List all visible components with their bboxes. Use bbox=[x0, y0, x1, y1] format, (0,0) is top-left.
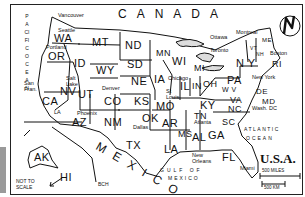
city-new-orleans: New Orleans bbox=[192, 152, 212, 164]
city-salt-lake: Salt Lake bbox=[66, 75, 82, 87]
state-wa: WA bbox=[54, 33, 72, 44]
state-ak: AK bbox=[34, 152, 50, 163]
state-nm: NM bbox=[104, 117, 122, 128]
state-wy: WY bbox=[96, 65, 115, 76]
city-portland: Portland bbox=[46, 45, 67, 51]
state-or: OR bbox=[48, 51, 66, 62]
city-vancouver: Vancouver bbox=[58, 13, 84, 19]
state-nc: NC bbox=[228, 105, 242, 114]
mexico-border bbox=[52, 127, 96, 182]
state-mt: MT bbox=[92, 37, 109, 48]
city-atlanta: Atlanta bbox=[194, 120, 211, 126]
state-nv: NV bbox=[60, 86, 76, 97]
state-la: LA bbox=[164, 144, 178, 155]
state-ms: MS bbox=[178, 130, 193, 139]
city-seattle: Seattle bbox=[58, 28, 75, 34]
city-st-louis: St Louis bbox=[166, 88, 180, 100]
state-oh: OH bbox=[203, 80, 218, 89]
state-sc: SC bbox=[222, 118, 236, 127]
state-ri: RI bbox=[272, 60, 282, 69]
city-wash-dc: Wash. DC bbox=[252, 106, 277, 112]
us-outline bbox=[38, 17, 280, 178]
label-gulf-of: GULF OF bbox=[160, 168, 203, 173]
state-nd: ND bbox=[125, 40, 142, 51]
state-mi: MI bbox=[194, 64, 205, 73]
state-mo: MO bbox=[156, 101, 175, 112]
state-sd: SD bbox=[127, 59, 143, 70]
city-ottawa: Ottawa bbox=[210, 35, 227, 41]
city-dallas: Dallas bbox=[133, 125, 148, 131]
state-ca: CA bbox=[42, 96, 58, 107]
state-wv: W V bbox=[222, 86, 237, 93]
state-in: IN bbox=[192, 82, 202, 91]
state-tx: TX bbox=[126, 140, 141, 151]
state-co: CO bbox=[104, 96, 122, 107]
state-ny: N Y bbox=[236, 58, 256, 69]
scale-km: 500 KM bbox=[264, 186, 280, 191]
not-to-scale-note: NOT TO SCALE bbox=[16, 178, 36, 190]
city-chicago: Chicago bbox=[168, 76, 188, 82]
state-al: AL bbox=[192, 132, 206, 143]
scale-miles: 500 MILES bbox=[262, 169, 284, 174]
state-ok: OK bbox=[142, 113, 159, 124]
state-ky: KY bbox=[200, 100, 216, 111]
state-id: ID bbox=[74, 58, 86, 69]
city-miami: Miami bbox=[240, 166, 255, 172]
state-ne: NE bbox=[131, 76, 147, 87]
city-la: LA bbox=[54, 110, 61, 116]
state-wi: WI bbox=[172, 56, 186, 67]
state-ia: IA bbox=[154, 74, 165, 85]
state-ut: UT bbox=[78, 89, 94, 100]
author-initials: BCH bbox=[98, 182, 109, 187]
city-boston: Boston bbox=[270, 51, 287, 57]
city-toronto: Toronto bbox=[210, 48, 228, 54]
state-il: IL bbox=[180, 81, 190, 92]
state-ar: AR bbox=[162, 118, 178, 129]
state-mn: MN bbox=[156, 49, 171, 58]
label-atlantic: ATLANTIC bbox=[244, 127, 280, 132]
city-san-fran: San Fran. bbox=[24, 80, 38, 92]
state-me: ME bbox=[262, 37, 272, 43]
state-fl: FL bbox=[222, 152, 236, 163]
state-de: DE bbox=[256, 88, 268, 96]
city-phoenix: Phoenix bbox=[77, 111, 97, 117]
state-ks: KS bbox=[134, 96, 150, 107]
state-hi: HI bbox=[60, 172, 72, 183]
state-pa: PA bbox=[227, 75, 242, 86]
label-atlantic-ocean: OCEAN bbox=[246, 136, 274, 141]
city-denver: Denver bbox=[102, 86, 120, 92]
state-ga: GA bbox=[208, 130, 225, 141]
state-az: AZ bbox=[72, 117, 87, 128]
us-map: CANADA MEXICO PACIFIC OCEAN ATLANTIC OCE… bbox=[0, 0, 305, 197]
city-new-york: New York bbox=[252, 75, 275, 81]
state-va: VA bbox=[230, 96, 242, 105]
label-gulf-mexico: MEXICO bbox=[168, 176, 200, 181]
label-canada: CANADA bbox=[118, 8, 228, 20]
map-title: U.S.A. bbox=[260, 152, 296, 165]
city-montreal: Montreal bbox=[236, 30, 257, 36]
state-nh: NH bbox=[256, 52, 264, 57]
